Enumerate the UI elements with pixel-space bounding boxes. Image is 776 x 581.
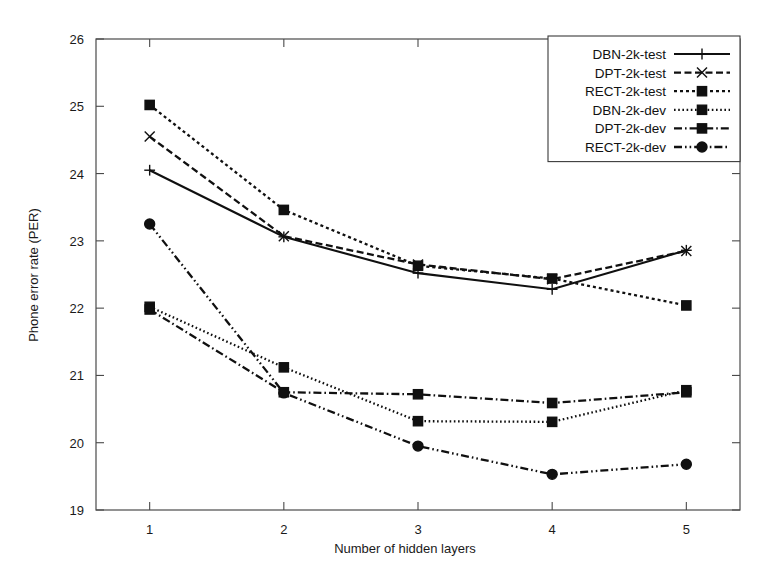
y-tick-label: 26	[70, 32, 84, 47]
marker-square	[697, 87, 706, 96]
legend-label: DPT-2k-test	[595, 66, 667, 81]
marker-square	[413, 417, 422, 426]
marker-square	[697, 124, 706, 133]
x-axis-label: Number of hidden layers	[334, 541, 476, 556]
x-tick-label: 4	[549, 522, 556, 537]
marker-square	[697, 105, 706, 114]
legend: DBN-2k-testDPT-2k-testRECT-2k-testDBN-2k…	[548, 36, 740, 162]
marker-circle	[145, 219, 155, 229]
x-tick-label: 5	[683, 522, 690, 537]
marker-square	[279, 205, 288, 214]
x-tick-label: 3	[414, 522, 421, 537]
marker-square	[145, 305, 154, 314]
marker-square	[548, 417, 557, 426]
line-chart: 1920212223242526 12345 DBN-2k-testDPT-2k…	[0, 0, 776, 581]
marker-square	[682, 388, 691, 397]
legend-label: DBN-2k-test	[592, 47, 666, 62]
marker-circle	[697, 142, 707, 152]
y-tick-label: 20	[70, 436, 84, 451]
marker-square	[413, 390, 422, 399]
y-tick-label: 25	[70, 99, 84, 114]
figure-container: 1920212223242526 12345 DBN-2k-testDPT-2k…	[0, 0, 776, 581]
x-tick-label: 1	[146, 522, 153, 537]
legend-label: RECT-2k-test	[585, 84, 666, 99]
y-tick-label: 19	[70, 503, 84, 518]
marker-square	[548, 398, 557, 407]
marker-square	[548, 274, 557, 283]
y-tick-label: 24	[70, 167, 84, 182]
marker-square	[145, 100, 154, 109]
marker-square	[413, 261, 422, 270]
legend-label: RECT-2k-dev	[585, 140, 666, 155]
marker-square	[279, 363, 288, 372]
legend-label: DPT-2k-dev	[595, 121, 667, 136]
marker-circle	[681, 459, 691, 469]
marker-square	[682, 301, 691, 310]
series-rect-2k-dev	[145, 219, 692, 479]
y-axis-label: Phone error rate (PER)	[26, 208, 41, 342]
x-tick-label: 2	[280, 522, 287, 537]
marker-circle	[279, 388, 289, 398]
legend-label: DBN-2k-dev	[592, 103, 666, 118]
y-tick-label: 21	[70, 368, 84, 383]
series-dbn-2k-test	[144, 165, 691, 295]
marker-circle	[413, 441, 423, 451]
y-tick-label: 23	[70, 234, 84, 249]
y-tick-label: 22	[70, 301, 84, 316]
marker-circle	[547, 469, 557, 479]
